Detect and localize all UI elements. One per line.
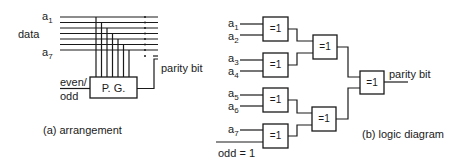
input-a6: a6 <box>228 100 239 115</box>
svg-text:=1: =1 <box>270 130 282 141</box>
caption-b: (b) logic diagram <box>362 128 444 140</box>
svg-text:=1: =1 <box>270 94 282 105</box>
parity-output-wire <box>137 59 158 89</box>
caption-a: (a) arrangement <box>43 124 122 136</box>
input-a1-label: a1 <box>42 10 53 25</box>
input-a7-label: a7 <box>42 46 53 61</box>
panel-arrangement: a1 data a7 <box>18 10 203 136</box>
svg-text:=1: =1 <box>318 113 330 124</box>
xor-gate-7: =1 <box>360 71 384 94</box>
odd-input-label: odd = 1 <box>218 147 255 159</box>
parity-bit-label-b: parity bit <box>389 68 431 80</box>
xor-gate-1: =1 <box>263 17 288 41</box>
svg-text:=1: =1 <box>270 23 282 34</box>
data-bus <box>60 16 158 57</box>
input-a2: a2 <box>228 30 239 45</box>
svg-text:=1: =1 <box>270 59 282 70</box>
panel-logic-diagram: a1 a2 a3 a4 a5 a6 a7 odd = 1 =1 =1 =1 <box>216 17 444 159</box>
input-a7: a7 <box>228 123 239 138</box>
data-label: data <box>18 28 40 40</box>
xor-gate-3: =1 <box>263 88 288 112</box>
bus-arrow-marks <box>144 16 146 57</box>
input-a4: a4 <box>228 65 239 80</box>
xor-gate-4: =1 <box>263 124 288 148</box>
bus-taps <box>96 17 129 77</box>
xor-gate-5: =1 <box>313 35 337 59</box>
even-odd-label-2: odd <box>60 90 78 102</box>
parity-generator-label: P. G. <box>102 82 126 94</box>
xor-gate-6: =1 <box>312 107 336 131</box>
even-odd-label-1: even/ <box>60 76 88 88</box>
parity-generator-figure: a1 data a7 <box>0 0 470 161</box>
svg-text:=1: =1 <box>319 41 331 52</box>
svg-text:=1: =1 <box>366 77 378 88</box>
xor-gate-2: =1 <box>263 53 288 77</box>
parity-bit-label-a: parity bit <box>161 62 203 74</box>
